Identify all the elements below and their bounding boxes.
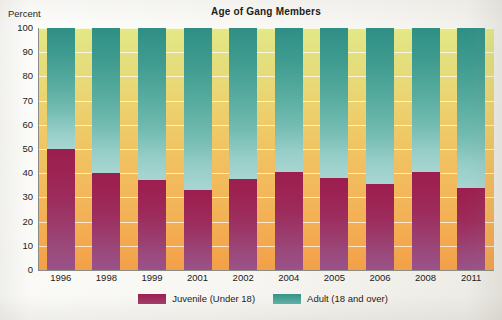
chart-legend: Juvenile (Under 18) Adult (18 and over): [0, 293, 502, 304]
y-tick-label: 90: [22, 47, 33, 57]
y-tick-label: 10: [22, 241, 33, 251]
y-tick-label: 100: [17, 23, 33, 33]
y-tick-label: 30: [22, 193, 33, 203]
x-tick-label: 2006: [369, 272, 390, 283]
legend-label-juvenile: Juvenile (Under 18): [172, 293, 255, 304]
x-tick-label: 2001: [187, 272, 208, 283]
x-tick-label: 1998: [96, 272, 117, 283]
x-tick-label: 1996: [50, 272, 71, 283]
chart-page: Percent Age of Gang Members 010203040506…: [0, 0, 502, 320]
x-axis-ticks: 1996199819992001200220042005200620082011: [38, 272, 494, 288]
adult-swatch: [273, 294, 301, 304]
x-tick-label: 2008: [415, 272, 436, 283]
chart-title: Age of Gang Members: [0, 6, 502, 17]
legend-label-adult: Adult (18 and over): [307, 293, 388, 304]
y-tick-label: 40: [22, 168, 33, 178]
plot-area: 0102030405060708090100: [38, 28, 494, 270]
y-tick-label: 80: [22, 72, 33, 82]
x-tick-label: 2005: [324, 272, 345, 283]
legend-item-juvenile: Juvenile (Under 18): [138, 293, 255, 304]
legend-item-adult: Adult (18 and over): [273, 293, 388, 304]
y-tick-label: 0: [28, 265, 33, 275]
x-tick-label: 2011: [461, 272, 481, 283]
y-tick-label: 70: [22, 96, 33, 106]
plot-frame: [38, 28, 494, 270]
y-tick-label: 20: [22, 217, 33, 227]
x-tick-label: 2002: [233, 272, 254, 283]
y-tick-label: 50: [22, 144, 33, 154]
gridline: [38, 270, 494, 271]
x-tick-label: 2004: [278, 272, 299, 283]
x-tick-label: 1999: [141, 272, 162, 283]
y-tick-label: 60: [22, 120, 33, 130]
juvenile-swatch: [138, 294, 166, 304]
